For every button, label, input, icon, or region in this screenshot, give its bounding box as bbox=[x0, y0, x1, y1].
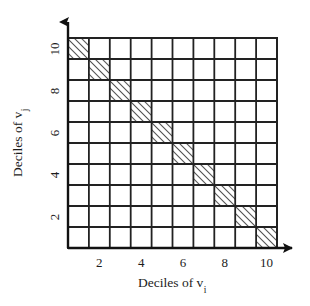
y-axis-title-text: Deciles of v bbox=[10, 112, 25, 177]
x-tick-label: 10 bbox=[260, 256, 273, 269]
y-tick-label: 4 bbox=[48, 171, 61, 178]
highlighted-cell bbox=[193, 164, 214, 185]
x-axis-title: Deciles of vi bbox=[138, 276, 206, 293]
y-tick-label: 2 bbox=[48, 213, 61, 220]
x-tick-label: 8 bbox=[222, 256, 229, 269]
y-tick-label: 6 bbox=[48, 129, 61, 136]
y-axis-title: Deciles of vj bbox=[11, 109, 28, 177]
x-axis-title-text: Deciles of v bbox=[138, 275, 203, 290]
highlighted-cell bbox=[256, 227, 277, 248]
figure-container: 246810 108642 Deciles of vi Deciles of v… bbox=[0, 0, 310, 306]
highlighted-cell bbox=[68, 38, 89, 59]
y-tick-label: 8 bbox=[48, 87, 61, 94]
highlighted-cell bbox=[152, 122, 173, 143]
highlighted-cell bbox=[131, 101, 152, 122]
highlighted-cell bbox=[235, 206, 256, 227]
y-axis-title-subscript: j bbox=[20, 109, 30, 112]
highlighted-cell bbox=[173, 143, 194, 164]
x-tick-label: 4 bbox=[138, 256, 145, 269]
highlighted-cell bbox=[89, 59, 110, 80]
x-axis-title-subscript: i bbox=[204, 285, 207, 295]
x-tick-label: 6 bbox=[180, 256, 187, 269]
y-tick-label: 10 bbox=[48, 42, 61, 55]
x-tick-label: 2 bbox=[96, 256, 103, 269]
highlighted-cell bbox=[214, 185, 235, 206]
highlighted-cell bbox=[110, 80, 131, 101]
